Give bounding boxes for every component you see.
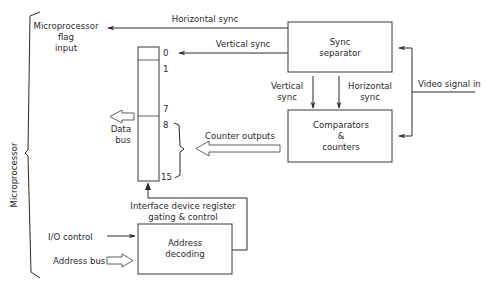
vertical-sync-label: Vertical sync xyxy=(216,39,271,49)
bits-8-15-brace xyxy=(174,123,184,178)
comparators-line1: Comparators xyxy=(313,120,369,130)
horizontal-sync-down-line1: Horizontal xyxy=(348,81,392,91)
register-bit-8: 8 xyxy=(163,120,168,130)
flag-input-line1: Microprocessor xyxy=(34,21,99,31)
register-column xyxy=(138,47,159,181)
sync-separator-line1: Sync xyxy=(330,37,351,47)
sync-separator-box xyxy=(288,22,392,72)
address-bus-arrow xyxy=(107,254,133,267)
microprocessor-bracket xyxy=(25,12,40,278)
vertical-sync-down-line2: sync xyxy=(277,92,297,102)
video-signal-connector xyxy=(399,48,475,136)
address-bus-label: Address bus xyxy=(53,256,106,266)
data-bus-line1: Data xyxy=(111,124,132,134)
microprocessor-label: Microprocessor xyxy=(9,142,19,207)
counter-outputs-arrow xyxy=(196,141,280,156)
comparators-line2: & xyxy=(338,131,345,141)
counter-outputs-label: Counter outputs xyxy=(205,131,275,141)
horizontal-sync-label: Horizontal sync xyxy=(172,14,239,24)
interface-control-line1: Interface device register xyxy=(130,201,236,211)
data-bus-line2: bus xyxy=(115,135,131,145)
flag-input-line3: input xyxy=(55,43,78,53)
vertical-sync-down-line1: Vertical xyxy=(271,81,303,91)
sync-separator-line2: separator xyxy=(319,48,361,58)
comparators-line3: counters xyxy=(322,142,360,152)
register-bit-15: 15 xyxy=(161,172,172,182)
interface-diagram: Microprocessor Microprocessor flag input… xyxy=(0,0,487,289)
flag-input-line2: flag xyxy=(58,32,74,42)
register-bit-1: 1 xyxy=(163,64,168,74)
data-bus-arrow xyxy=(110,110,134,123)
address-decoding-line2: decoding xyxy=(165,249,204,259)
register-bit-7: 7 xyxy=(163,104,168,114)
video-signal-label: Video signal in xyxy=(418,79,481,89)
register-bit-0: 0 xyxy=(163,48,168,58)
address-decoding-line1: Address xyxy=(168,238,203,248)
horizontal-sync-down-line2: sync xyxy=(360,92,380,102)
interface-control-line2: gating & control xyxy=(148,212,217,222)
io-control-label: I/O control xyxy=(48,232,93,242)
